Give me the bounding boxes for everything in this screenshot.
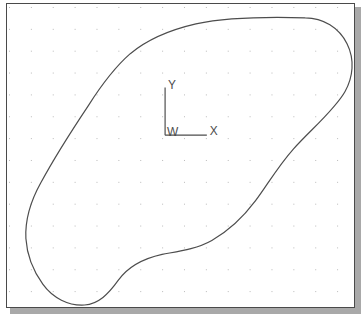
ucs-y-axis-label: Y (168, 78, 176, 92)
closed-spline-region[interactable] (26, 17, 352, 305)
cad-drawing-canvas[interactable]: Y W X (6, 3, 355, 308)
ucs-coordinate-icon[interactable]: Y W X (165, 78, 218, 139)
ucs-origin-label: W (167, 125, 179, 139)
cad-viewport: Y W X (0, 0, 363, 316)
ucs-x-axis-label: X (210, 124, 218, 138)
drawing-content: Y W X (7, 4, 354, 307)
